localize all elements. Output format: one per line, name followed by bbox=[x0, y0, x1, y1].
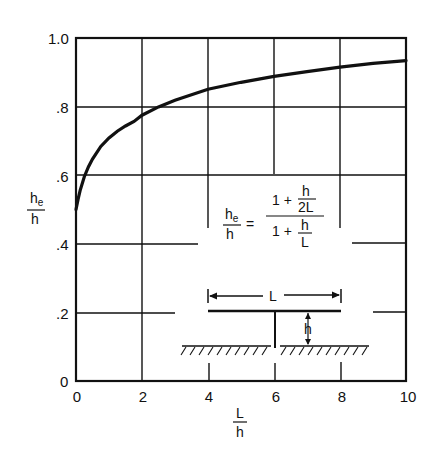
horizontal-gridlines bbox=[76, 107, 406, 313]
formula-den-prefix: 1 + bbox=[272, 223, 292, 239]
plot-frame bbox=[76, 38, 406, 381]
y-tick-0.6: .6 bbox=[56, 168, 69, 185]
x-label-numerator: L bbox=[236, 405, 244, 421]
y-tick-1.0: 1.0 bbox=[48, 30, 69, 47]
x-tick-6: 6 bbox=[272, 388, 280, 405]
y-tick-labels: 1.0 .8 .6 .4 .2 0 bbox=[48, 30, 69, 390]
chart: 1.0 .8 .6 .4 .2 0 0 2 4 6 8 10 L h he h … bbox=[0, 0, 437, 465]
formula-num-frac-bot: 2L bbox=[298, 199, 314, 215]
arrow-left-icon bbox=[209, 293, 217, 300]
plate-diagram: L h bbox=[181, 288, 369, 355]
data-curve bbox=[76, 61, 406, 210]
formula-equals: = bbox=[246, 216, 254, 232]
x-tick-0: 0 bbox=[73, 388, 81, 405]
formula-lhs-den: h bbox=[226, 226, 234, 242]
x-tick-labels: 0 2 4 6 8 10 bbox=[73, 388, 417, 405]
y-label-denominator: h bbox=[31, 211, 39, 227]
height-label: h bbox=[304, 321, 312, 337]
y-tick-0: 0 bbox=[60, 373, 68, 390]
formula-lhs-num: he bbox=[225, 206, 239, 224]
formula-num-prefix: 1 + bbox=[272, 192, 292, 208]
y-label-numerator: he bbox=[30, 190, 44, 208]
formula-den-frac-top: h bbox=[301, 217, 309, 233]
arrow-right-icon bbox=[332, 292, 340, 299]
formula-num-frac-top: h bbox=[302, 183, 310, 199]
x-axis-label: L h bbox=[233, 405, 247, 440]
x-tick-2: 2 bbox=[139, 388, 147, 405]
y-axis-label: he h bbox=[27, 190, 45, 227]
x-tick-4: 4 bbox=[205, 388, 213, 405]
arrow-up-icon bbox=[305, 313, 311, 319]
y-tick-0.8: .8 bbox=[56, 99, 69, 116]
formula-den-frac-bot: L bbox=[301, 234, 309, 250]
x-label-denominator: h bbox=[236, 424, 244, 440]
x-tick-8: 8 bbox=[338, 388, 346, 405]
dim-length-label: L bbox=[269, 288, 277, 304]
y-tick-0.4: .4 bbox=[56, 236, 69, 253]
ground-hatch bbox=[181, 347, 367, 355]
y-tick-0.2: .2 bbox=[56, 305, 69, 322]
x-tick-10: 10 bbox=[400, 388, 417, 405]
arrow-down-icon bbox=[305, 339, 311, 345]
formula: he h = 1 + h 2L 1 + h L bbox=[223, 183, 324, 250]
